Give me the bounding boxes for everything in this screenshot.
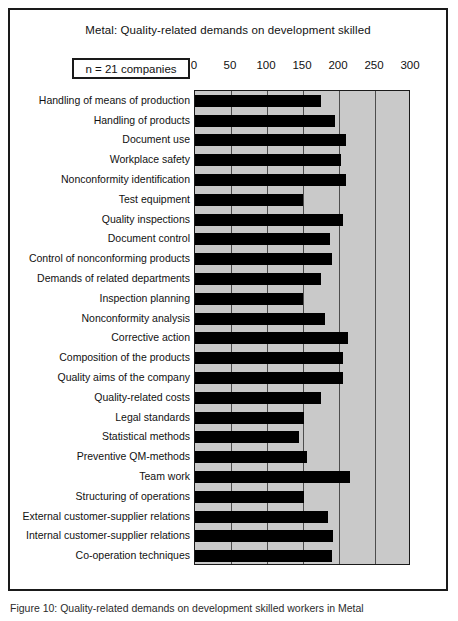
bar xyxy=(195,253,332,265)
bar xyxy=(195,214,343,226)
category-label: Handling of means of production xyxy=(39,95,190,106)
category-label: Quality inspections xyxy=(102,214,190,225)
bars-layer xyxy=(195,91,409,564)
bar xyxy=(195,392,321,404)
bar xyxy=(195,95,321,107)
sample-size-badge: n = 21 companies xyxy=(72,58,190,79)
category-label: Legal standards xyxy=(115,412,190,423)
bar xyxy=(195,233,330,245)
category-axis-labels: Handling of means of productionHandling … xyxy=(22,90,190,565)
bar xyxy=(195,154,341,166)
x-axis-tick-labels: 050100150200250300 xyxy=(194,59,426,78)
category-label: Internal customer-supplier relations xyxy=(26,530,190,541)
x-tick-label: 50 xyxy=(224,59,237,71)
bar xyxy=(195,471,350,483)
category-label: Nonconformity identification xyxy=(61,174,190,185)
x-tick-label: 150 xyxy=(292,59,311,71)
bar xyxy=(195,313,325,325)
category-label: Control of nonconforming products xyxy=(29,253,190,264)
category-label: Workplace safety xyxy=(110,154,190,165)
category-label: Document control xyxy=(108,233,190,244)
category-label: Corrective action xyxy=(111,332,190,343)
category-label: Nonconformity analysis xyxy=(81,313,190,324)
x-tick-label: 200 xyxy=(328,59,347,71)
bar xyxy=(195,372,343,384)
bar xyxy=(195,352,343,364)
category-label: Statistical methods xyxy=(102,431,190,442)
bar xyxy=(195,550,332,562)
figure-frame: Metal: Quality-related demands on develo… xyxy=(8,8,448,591)
sample-size-label: n = 21 companies xyxy=(85,63,176,75)
x-tick-label: 250 xyxy=(364,59,383,71)
category-label: Co-operation techniques xyxy=(76,550,190,561)
bar xyxy=(195,293,303,305)
category-label: Test equipment xyxy=(119,194,190,205)
category-label: Quality aims of the company xyxy=(58,372,190,383)
category-label: Demands of related departments xyxy=(37,273,190,284)
category-label: Structuring of operations xyxy=(76,491,190,502)
category-label: External customer-supplier relations xyxy=(23,511,191,522)
bar xyxy=(195,530,333,542)
plot-area xyxy=(194,90,410,565)
x-tick-label: 100 xyxy=(256,59,275,71)
category-label: Quality-related costs xyxy=(94,392,190,403)
bar xyxy=(195,194,303,206)
bar xyxy=(195,115,335,127)
category-label: Composition of the products xyxy=(59,352,190,363)
bar xyxy=(195,431,299,443)
figure-caption: Figure 10: Quality-related demands on de… xyxy=(10,602,450,614)
chart-title: Metal: Quality-related demands on develo… xyxy=(10,24,446,36)
category-label: Preventive QM-methods xyxy=(77,451,190,462)
x-tick-label: 0 xyxy=(191,59,197,71)
category-label: Inspection planning xyxy=(100,293,191,304)
bar xyxy=(195,134,346,146)
bar xyxy=(195,511,328,523)
bar xyxy=(195,332,348,344)
category-label: Team work xyxy=(139,471,190,482)
bar xyxy=(195,412,304,424)
category-label: Handling of products xyxy=(94,115,190,126)
bar xyxy=(195,273,321,285)
x-tick-label: 300 xyxy=(400,59,419,71)
bar xyxy=(195,491,304,503)
bar xyxy=(195,451,307,463)
category-label: Document use xyxy=(122,134,190,145)
bar xyxy=(195,174,346,186)
